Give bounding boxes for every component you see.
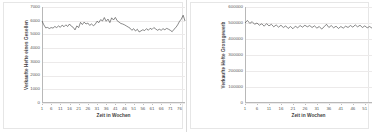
y-tick-label: 500000 (221, 21, 243, 25)
y-tick-label: 7000 (24, 5, 40, 9)
x-tick-label: 26 (299, 107, 311, 111)
y-tick-label: 1000 (24, 87, 40, 91)
x-tick-label: 76 (174, 107, 186, 111)
chart-panel-left: Verkaufte Hefte eines Gesellen 700060005… (0, 0, 186, 132)
x-tick-label: 16 (275, 107, 287, 111)
x-tick-label: 31 (311, 107, 323, 111)
data-series-svg (42, 7, 185, 103)
y-tick-label: 0 (221, 101, 243, 105)
y-tick-label: 300000 (221, 53, 243, 57)
x-tick-label: 21 (287, 107, 299, 111)
y-tick-label: 200000 (221, 69, 243, 73)
y-tick-label: 100000 (221, 85, 243, 89)
data-series-svg (245, 7, 372, 103)
y-tick-label: 3000 (24, 60, 40, 64)
plot-area-right (245, 7, 372, 103)
y-tick-label: 0 (24, 101, 40, 105)
y-tick-label: 5000 (24, 32, 40, 36)
dual-chart-figure: Verkaufte Hefte eines Gesellen 700060005… (0, 0, 372, 132)
x-axis-title-left: Zeit in Wochen (42, 113, 185, 118)
x-tick-label: 6 (251, 107, 263, 111)
gridline (42, 103, 185, 104)
data-line (245, 20, 372, 29)
x-tick-label: 46 (347, 107, 359, 111)
x-tick-label: 36 (323, 107, 335, 111)
y-tick-label: 600000 (221, 5, 243, 9)
x-tick-label: 1 (239, 107, 251, 111)
gridline (245, 103, 372, 104)
x-tick-label: 11 (263, 107, 275, 111)
x-tick-label: 51 (359, 107, 371, 111)
y-tick-label: 400000 (221, 37, 243, 41)
x-axis-title-right: Zeit in Wochen (245, 113, 372, 118)
plot-area-left (42, 7, 185, 103)
y-tick-label: 6000 (24, 19, 40, 23)
x-tick-label: 41 (335, 107, 347, 111)
y-tick-label: 2000 (24, 73, 40, 77)
data-line (42, 15, 185, 32)
chart-panel-right: Verkaufte Hefte Grossgewerb 600000500000… (186, 0, 372, 132)
y-tick-label: 4000 (24, 46, 40, 50)
